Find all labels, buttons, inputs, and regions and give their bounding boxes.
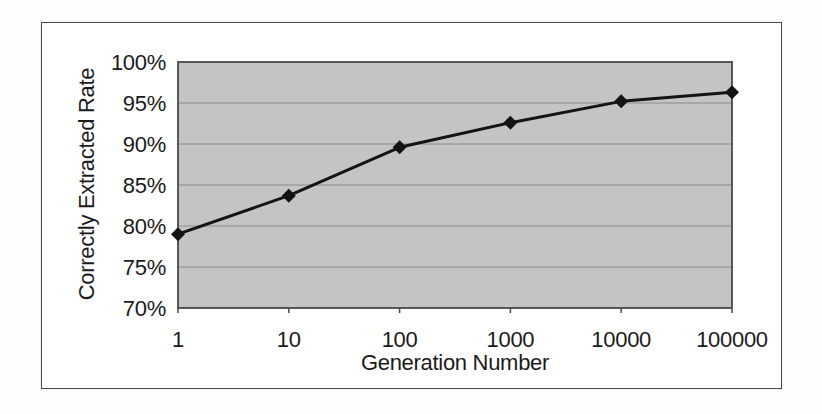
y-tick-label: 90%: [123, 132, 166, 157]
y-tick-label: 75%: [123, 255, 166, 280]
x-tick-label: 1: [172, 327, 184, 352]
x-tick-label: 10000: [591, 327, 651, 352]
x-tick-label: 10: [277, 327, 301, 352]
x-axis-title: Generation Number: [178, 350, 732, 376]
y-tick-label: 80%: [123, 214, 166, 239]
x-tick-label: 1000: [487, 327, 535, 352]
x-tick-label: 100: [382, 327, 418, 352]
y-axis-title: Correctly Extracted Rate: [74, 68, 100, 300]
y-tick-label: 95%: [123, 91, 166, 116]
y-tick-label: 85%: [123, 173, 166, 198]
y-tick-label: 70%: [123, 296, 166, 321]
scanned-figure-page: 70%75%80%85%90%95%100%110100100010000100…: [0, 0, 822, 414]
y-tick-label: 100%: [111, 50, 166, 75]
x-tick-label: 100000: [696, 327, 768, 352]
